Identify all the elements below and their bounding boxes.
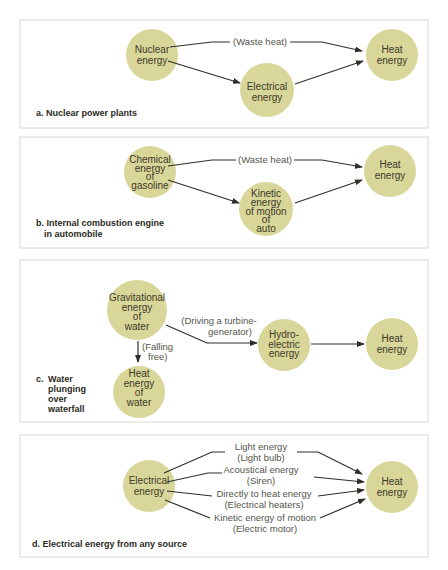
panel-caption: d. Electrical energy from any source <box>32 539 187 549</box>
panel-caption: Water <box>48 374 73 384</box>
panel-d: Electrical energy Heat energy Light ener… <box>32 441 418 549</box>
node-label: Heat <box>381 333 402 344</box>
edge-label: free) <box>148 351 168 362</box>
panel-caption: in automobile <box>44 229 103 239</box>
edge-kinetic-to-heat <box>295 180 362 203</box>
node-label: gasoline <box>131 180 169 191</box>
path-sublabel: (Light bulb) <box>237 452 285 463</box>
node-label: water <box>126 397 152 408</box>
path-label: Directly to heat energy <box>216 488 311 499</box>
edge-light-out <box>297 452 362 474</box>
path-sublabel: (Siren) <box>247 475 276 486</box>
panel-caption: over <box>48 394 68 404</box>
node-label: energy <box>377 344 408 355</box>
node-label: Electrical <box>129 475 170 486</box>
node-label: Electrical <box>247 81 288 92</box>
node-label: water <box>124 321 150 332</box>
panel-caption: a. Nuclear power plants <box>36 108 137 118</box>
panel-caption: plunging <box>48 384 86 394</box>
edge-waste-heat-arrow <box>294 160 362 167</box>
node-label: energy <box>134 486 165 497</box>
edge-label: (Driving a turbine- <box>181 315 257 326</box>
edge-label: (Waste heat) <box>238 154 292 165</box>
node-label: energy <box>269 348 300 359</box>
path-label: Light energy <box>235 441 288 452</box>
edge-kinetic-out <box>320 499 365 518</box>
path-label: Kinetic energy of motion <box>214 512 316 523</box>
edge-waste-heat <box>168 160 236 166</box>
edge-electrical-to-heat <box>295 61 363 84</box>
node-label: energy <box>377 55 408 66</box>
edge-acoustical-out <box>314 477 364 482</box>
node-label: energy <box>252 92 283 103</box>
node-label: Nuclear <box>135 44 170 55</box>
node-label: Heat <box>379 159 400 170</box>
panel-b: Chemical energy of gasoline Kinetic ener… <box>36 145 416 239</box>
edge-direct-out <box>318 490 364 496</box>
node-label: auto <box>256 223 276 234</box>
panel-caption: c. <box>36 374 44 384</box>
edge-kinetic-in <box>165 500 210 518</box>
path-label: Acoustical energy <box>224 464 299 475</box>
path-sublabel: (Electric motor) <box>233 523 297 534</box>
energy-conversion-diagram: Nuclear energy Electrical energy Heat en… <box>0 0 448 570</box>
node-label: Heat <box>381 44 402 55</box>
edge-nuclear-to-electrical <box>168 61 240 83</box>
edge-acoustical-in <box>167 473 222 482</box>
panel-a: Nuclear energy Electrical energy Heat en… <box>36 29 418 118</box>
panel-caption: b. Internal combustion engine <box>36 218 164 228</box>
edge-waste-heat-arrow <box>290 42 362 51</box>
edge-chemical-to-kinetic <box>168 180 239 203</box>
node-label: energy <box>377 487 408 498</box>
node-label: energy <box>375 170 406 181</box>
node-label: energy <box>137 55 168 66</box>
edge-light-in <box>164 452 225 473</box>
path-sublabel: (Electrical heaters) <box>224 499 303 510</box>
edge-label: generator) <box>208 326 252 337</box>
panel-caption: waterfall <box>47 404 85 414</box>
panel-c: Gravitational energy of water Heat energ… <box>36 280 418 418</box>
node-label: Heat <box>381 476 402 487</box>
edge-label: (Waste heat) <box>233 36 287 47</box>
edge-waste-heat <box>170 42 230 47</box>
